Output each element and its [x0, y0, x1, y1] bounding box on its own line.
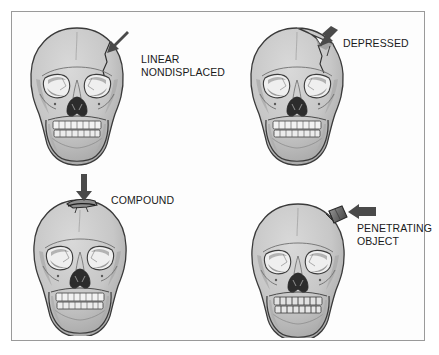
skull-illustration-compound: [25, 196, 135, 336]
arrow-icon-linear: [104, 30, 130, 56]
lower-teeth: [54, 130, 100, 137]
label-depressed: DEPRESSED: [343, 37, 409, 50]
upper-teeth: [56, 293, 104, 301]
upper-teeth: [53, 121, 101, 129]
panel-linear-nondisplaced: LINEARNONDISPLACED: [22, 24, 212, 174]
label-penetrating-object: PENETRATINGOBJECT: [357, 222, 432, 247]
skull-fracture-figure: LINEARNONDISPLACED: [0, 0, 439, 355]
panel-penetrating-object: PENETRATINGOBJECT: [243, 200, 433, 335]
label-line-2: OBJECT: [357, 235, 399, 247]
arrow-icon-depressed: [317, 25, 339, 51]
panel-compound: COMPOUND: [25, 196, 215, 336]
label-compound: COMPOUND: [111, 194, 174, 207]
panel-depressed: DEPRESSED: [242, 24, 432, 174]
lower-teeth: [57, 302, 103, 309]
label-line-2: NONDISPLACED: [141, 66, 225, 78]
label-line-1: DEPRESSED: [343, 37, 409, 49]
lower-teeth: [275, 306, 321, 313]
label-linear-nondisplaced: LINEARNONDISPLACED: [141, 53, 225, 78]
lower-teeth: [274, 130, 320, 137]
label-line-1: LINEAR: [141, 53, 180, 65]
arrow-icon-compound: [75, 174, 93, 202]
label-line-1: COMPOUND: [111, 194, 174, 206]
label-line-1: PENETRATING: [357, 222, 432, 234]
skull-illustration-penetrating: [243, 200, 353, 338]
arrow-icon-penetrating: [347, 203, 377, 223]
upper-teeth: [274, 297, 322, 305]
upper-teeth: [273, 121, 321, 129]
